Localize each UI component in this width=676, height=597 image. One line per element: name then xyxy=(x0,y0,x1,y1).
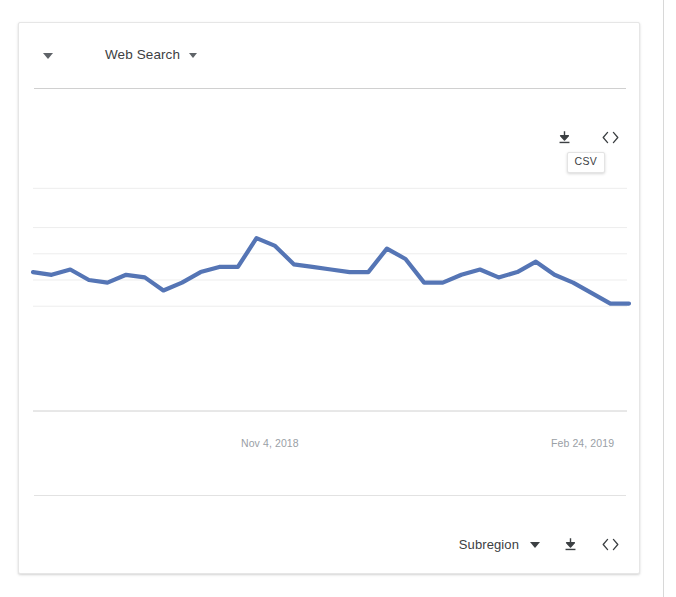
footer-controls: Subregion xyxy=(459,534,620,554)
card-title: Web Search xyxy=(105,47,180,62)
caret-down-icon xyxy=(530,542,540,548)
embed-code-icon[interactable] xyxy=(600,127,620,147)
x-axis-tick-label: Nov 4, 2018 xyxy=(241,437,299,449)
x-axis-tick-label: Feb 24, 2019 xyxy=(551,437,614,449)
download-icon[interactable] xyxy=(560,534,580,554)
caret-down-icon xyxy=(189,53,197,58)
footer-divider xyxy=(34,495,626,496)
card-header: Web Search xyxy=(19,23,639,89)
web-search-dropdown[interactable]: Web Search xyxy=(105,47,197,62)
chart-series-line-main xyxy=(33,238,629,304)
plot-actions xyxy=(554,127,620,147)
csv-tooltip: CSV xyxy=(567,152,606,173)
subregion-dropdown[interactable]: Subregion xyxy=(459,537,540,552)
caret-down-icon[interactable] xyxy=(43,53,53,59)
chart-region: CSV Nov 4, 2018 Feb 24, 2019 xyxy=(19,89,639,451)
trends-chart-card: Web Search xyxy=(18,22,640,574)
line-chart xyxy=(19,89,640,451)
embed-code-icon[interactable] xyxy=(600,534,620,554)
page-divider xyxy=(663,0,664,597)
card-footer: Subregion xyxy=(19,518,639,572)
download-icon[interactable] xyxy=(554,127,574,147)
chart-gridlines xyxy=(33,188,627,306)
subregion-label: Subregion xyxy=(459,537,519,552)
